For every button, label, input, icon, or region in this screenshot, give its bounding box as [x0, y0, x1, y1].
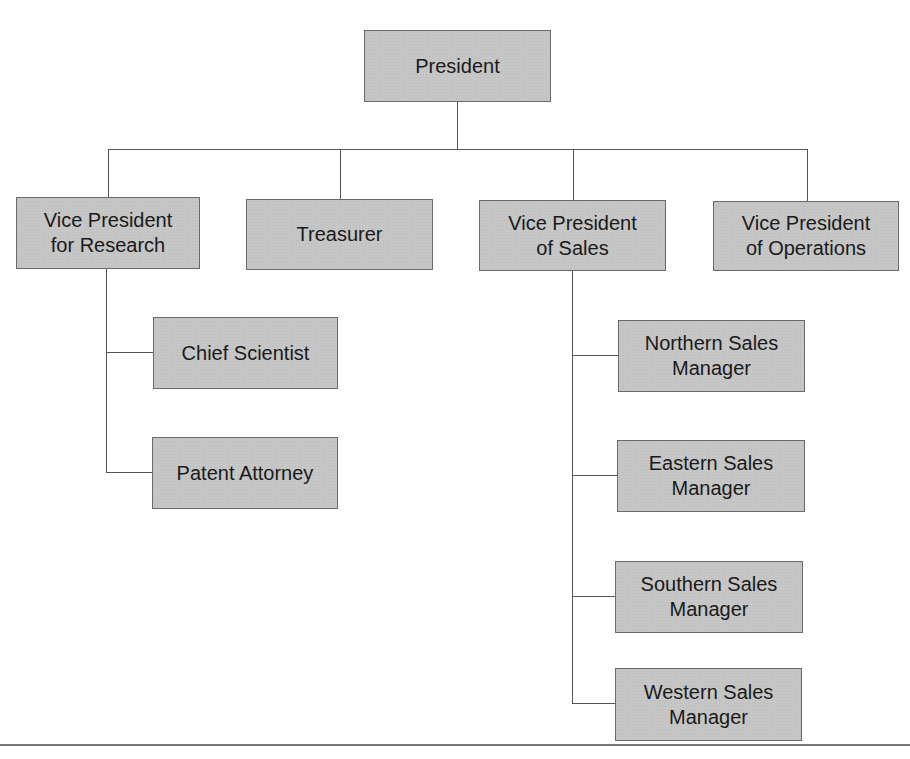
node-western-sales: Western Sales Manager [615, 668, 802, 741]
connector-to-vp-sales [573, 149, 574, 200]
node-label: Patent Attorney [177, 461, 314, 486]
node-label: Northern Sales Manager [645, 331, 778, 381]
node-patent-attorney: Patent Attorney [152, 437, 338, 509]
connector-sales-trunk [572, 270, 573, 704]
node-vp-research: Vice President for Research [16, 197, 200, 269]
bottom-divider [0, 744, 910, 746]
node-label: Vice President for Research [44, 208, 173, 258]
connector-research-trunk [106, 268, 107, 473]
node-label: Vice President of Sales [508, 211, 637, 261]
node-eastern-sales: Eastern Sales Manager [617, 440, 805, 512]
connector-to-northern-sales [572, 355, 618, 356]
node-vp-operations: Vice President of Operations [713, 201, 899, 271]
node-vp-sales: Vice President of Sales [479, 200, 666, 271]
connector-to-eastern-sales [572, 475, 618, 476]
connector-to-vp-operations [807, 149, 808, 201]
node-label: Vice President of Operations [742, 211, 871, 261]
node-label: Chief Scientist [182, 341, 310, 366]
node-label: Eastern Sales Manager [649, 451, 774, 501]
node-chief-scientist: Chief Scientist [153, 317, 338, 389]
connector-president-down [457, 101, 458, 150]
node-label: Western Sales Manager [644, 680, 774, 730]
node-president: President [364, 30, 551, 102]
connector-top-bar [108, 149, 808, 150]
node-northern-sales: Northern Sales Manager [618, 320, 805, 392]
node-treasurer: Treasurer [246, 199, 433, 270]
node-label: Treasurer [297, 222, 383, 247]
node-label: President [415, 54, 500, 79]
connector-to-patent-attorney [106, 472, 153, 473]
node-southern-sales: Southern Sales Manager [615, 561, 803, 633]
connector-to-southern-sales [572, 596, 616, 597]
node-label: Southern Sales Manager [641, 572, 778, 622]
connector-to-vp-research [108, 149, 109, 198]
connector-to-treasurer [340, 149, 341, 199]
connector-to-western-sales [572, 703, 616, 704]
connector-to-chief-scientist [106, 352, 153, 353]
